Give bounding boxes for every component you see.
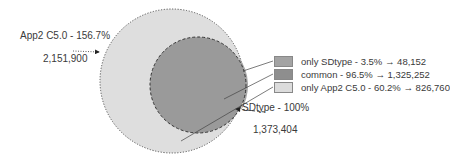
inner-set-label: SDtype - 100% <box>242 102 309 113</box>
legend-swatch <box>274 56 293 67</box>
legend-label: only App2 C5.0 - 60.2% → 826,760 <box>301 82 450 93</box>
sdtype-circle <box>150 37 246 133</box>
legend-swatch <box>274 69 293 80</box>
legend-only-app2: only App2 C5.0 - 60.2% → 826,760 <box>274 81 450 93</box>
legend-label: only SDtype - 3.5% → 48,152 <box>301 56 426 67</box>
legend-label: common - 96.5% → 1,325,252 <box>301 69 430 80</box>
outer-set-label: App2 C5.0 - 156.7% <box>20 30 110 41</box>
legend-common: common - 96.5% → 1,325,252 <box>274 68 430 80</box>
legend-only-sdtype: only SDtype - 3.5% → 48,152 <box>274 55 426 67</box>
outer-set-count: 2,151,900 <box>43 53 88 64</box>
inner-set-count: 1,373,404 <box>253 124 298 135</box>
legend-swatch <box>274 82 293 93</box>
